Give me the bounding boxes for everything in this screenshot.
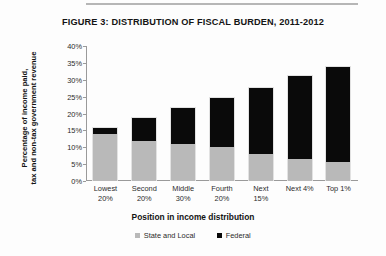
x-tick-label: Next15% [241,184,280,210]
y-tick-label: 15% [48,126,82,135]
bar-segment[interactable] [92,134,118,181]
y-tick-mark [83,181,86,182]
bar-column[interactable] [92,46,118,181]
legend-swatch-icon [217,233,222,238]
y-axis-title: Percentage of income paid, tax and non-t… [12,48,46,188]
bar-segment[interactable] [170,144,196,181]
bar-segment[interactable] [131,141,157,182]
bar-segment[interactable] [170,107,196,144]
bar-segment[interactable] [248,87,274,155]
x-tick-label: Second20% [125,184,164,210]
legend-item[interactable]: Federal [217,231,251,240]
legend-swatch-icon [135,233,140,238]
bar-segment[interactable] [209,147,235,181]
figure-container: FIGURE 3: DISTRIBUTION OF FISCAL BURDEN,… [0,0,386,256]
y-tick-label: 40% [48,42,82,51]
x-tick-label: Next 4% [280,184,319,210]
x-axis-title: Position in income distribution [0,212,386,222]
x-axis-tick-labels: Lowest20%Second20%Middle30%Fourth20%Next… [86,184,358,210]
bar-segment[interactable] [325,162,351,181]
x-tick-label: Lowest20% [86,184,125,210]
bar-column[interactable] [170,46,196,181]
legend-item[interactable]: State and Local [135,231,195,240]
legend-label: State and Local [144,231,195,240]
bar-column[interactable] [287,46,313,181]
bar-segment[interactable] [209,97,235,148]
x-tick-label: Middle30% [164,184,203,210]
legend-label: Federal [226,231,251,240]
x-tick-label: Top 1% [319,184,358,210]
y-tick-label: 25% [48,92,82,101]
y-tick-label: 10% [48,143,82,152]
y-tick-label: 0% [48,177,82,186]
y-axis-title-line-1: Percentage of income paid, [20,43,29,193]
bar-column[interactable] [209,46,235,181]
bar-segment[interactable] [248,154,274,181]
plot-area: 40%35%30%25%20%15%10%5%0% [86,46,358,181]
chart-title: FIGURE 3: DISTRIBUTION OF FISCAL BURDEN,… [0,17,386,27]
bar-segment[interactable] [287,75,313,159]
bar-column[interactable] [248,46,274,181]
bar-segment[interactable] [131,117,157,141]
chart-legend: State and LocalFederal [0,231,386,240]
bar-segment[interactable] [287,159,313,181]
bar-column[interactable] [131,46,157,181]
y-tick-label: 30% [48,75,82,84]
x-tick-label: Fourth20% [203,184,242,210]
bar-group [86,46,358,181]
bar-column[interactable] [325,46,351,181]
y-tick-label: 5% [48,160,82,169]
y-tick-label: 35% [48,58,82,67]
bar-segment[interactable] [325,66,351,162]
bar-segment[interactable] [92,127,118,134]
top-divider [86,3,358,5]
y-tick-label: 20% [48,109,82,118]
y-axis-title-line-2: tax and non-tax government revenue [29,43,38,193]
